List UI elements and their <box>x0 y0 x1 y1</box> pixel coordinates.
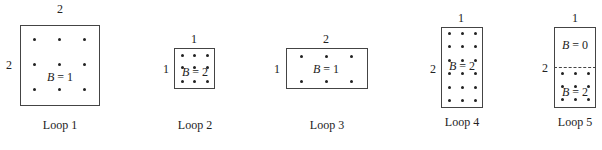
field-dot <box>448 45 451 48</box>
field-dot <box>181 54 184 57</box>
field-dot <box>448 72 451 75</box>
field-dot <box>587 98 590 101</box>
loop-4-caption: Loop 4 <box>445 116 479 128</box>
loop-1-field-label: B = 1 <box>47 71 73 83</box>
field-dot <box>325 80 328 83</box>
loop-5-height-label: 2 <box>540 62 550 74</box>
field-dot <box>561 85 564 88</box>
field-dot <box>325 55 328 58</box>
field-dot <box>587 85 590 88</box>
loop-5-upper-field-label: B = 0 <box>562 39 588 51</box>
field-dot <box>350 55 353 58</box>
field-dot <box>574 85 577 88</box>
field-dot <box>193 80 196 83</box>
field-dot <box>33 88 36 91</box>
field-dot <box>206 54 209 57</box>
field-dot <box>448 59 451 62</box>
field-value: = 1 <box>54 70 73 84</box>
field-dot <box>33 63 36 66</box>
field-dot <box>33 38 36 41</box>
field-dot <box>448 99 451 102</box>
field-dot <box>350 80 353 83</box>
field-dot <box>461 99 464 102</box>
field-dot <box>300 55 303 58</box>
field-dot <box>448 32 451 35</box>
field-dot <box>83 88 86 91</box>
field-dot <box>300 80 303 83</box>
field-dot <box>474 86 477 89</box>
field-dot <box>193 66 196 69</box>
field-dot <box>83 63 86 66</box>
loop-3-height-label: 1 <box>272 63 282 75</box>
loop-3-caption: Loop 3 <box>310 119 344 131</box>
field-dot <box>181 66 184 69</box>
field-dot <box>474 32 477 35</box>
field-dot <box>461 32 464 35</box>
field-dot <box>58 38 61 41</box>
field-dot <box>193 54 196 57</box>
loop-5-field-boundary <box>554 67 596 68</box>
field-dot <box>58 88 61 91</box>
field-dot <box>461 59 464 62</box>
loop-2-width-label: 1 <box>189 33 199 45</box>
field-dot <box>561 72 564 75</box>
field-dot <box>574 72 577 75</box>
loop-2-caption: Loop 2 <box>178 119 212 131</box>
loop-5-caption: Loop 5 <box>558 116 592 128</box>
field-dot <box>206 80 209 83</box>
field-dot <box>474 45 477 48</box>
field-dot <box>574 98 577 101</box>
field-value: = 1 <box>320 62 339 76</box>
field-dot <box>58 63 61 66</box>
field-value: = 2 <box>456 59 475 73</box>
loop-1-width-label: 2 <box>55 3 65 15</box>
field-dot <box>461 72 464 75</box>
field-dot <box>83 38 86 41</box>
loop-3-field-label: B = 1 <box>313 63 339 75</box>
field-dot <box>561 98 564 101</box>
field-dot <box>461 86 464 89</box>
field-dot <box>448 86 451 89</box>
loop-1-caption: Loop 1 <box>43 119 77 131</box>
field-dot <box>587 72 590 75</box>
field-value: = 0 <box>569 38 588 52</box>
loop-5-width-label: 1 <box>570 12 580 24</box>
loop-3-width-label: 2 <box>321 33 331 45</box>
loop-2-height-label: 1 <box>161 63 171 75</box>
field-value: = 2 <box>569 85 588 99</box>
loop-1-height-label: 2 <box>4 59 14 71</box>
field-dot <box>206 66 209 69</box>
field-dot <box>181 80 184 83</box>
loop-4-width-label: 1 <box>456 12 466 24</box>
field-dot <box>474 59 477 62</box>
field-dot <box>474 72 477 75</box>
loop-4-height-label: 2 <box>428 63 438 75</box>
field-dot <box>474 99 477 102</box>
field-dot <box>461 45 464 48</box>
